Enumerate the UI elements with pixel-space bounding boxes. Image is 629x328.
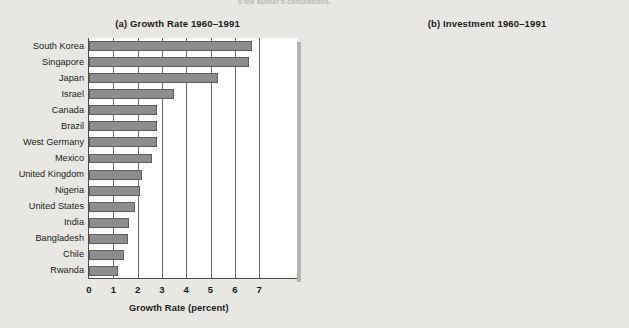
bar-growth-rate-united-kingdom (89, 170, 142, 180)
category-label-growth-rate-brazil: Brazil (61, 121, 84, 131)
category-label-growth-rate-japan: Japan (59, 73, 84, 83)
chart-panel-growth-rate: (a) Growth Rate 1960–1991 South KoreaSin… (0, 0, 315, 328)
x-tick-label-growth-rate-4: 4 (184, 284, 189, 295)
category-label-growth-rate-singapore: Singapore (42, 57, 84, 67)
category-label-growth-rate-united-states: United States (29, 201, 84, 211)
category-label-growth-rate-south-korea: South Korea (33, 41, 84, 51)
gridline-growth-rate-7 (259, 38, 260, 278)
bar-growth-rate-nigeria (89, 186, 140, 196)
x-tick-label-growth-rate-3: 3 (159, 284, 164, 295)
x-tick-label-growth-rate-2: 2 (135, 284, 140, 295)
category-label-growth-rate-israel: Israel (62, 89, 84, 99)
x-tick-label-growth-rate-1: 1 (111, 284, 116, 295)
category-label-growth-rate-united-kingdom: United Kingdom (19, 169, 84, 179)
bar-growth-rate-israel (89, 89, 174, 99)
category-label-growth-rate-mexico: Mexico (55, 153, 84, 163)
chart-title-growth-rate: (a) Growth Rate 1960–1991 (0, 18, 315, 29)
chart-title-investment: (b) Investment 1960–1991 (315, 18, 629, 29)
category-label-growth-rate-india: India (64, 217, 84, 227)
bar-growth-rate-west-germany (89, 137, 157, 147)
category-label-growth-rate-chile: Chile (63, 249, 84, 259)
x-tick-label-growth-rate-5: 5 (208, 284, 213, 295)
category-label-growth-rate-west-germany: West Germany (23, 137, 84, 147)
category-label-growth-rate-bangladesh: Bangladesh (35, 233, 84, 243)
plot-area-growth-rate: South KoreaSingaporeJapanIsraelCanadaBra… (88, 38, 297, 279)
x-axis-title-growth-rate: Growth Rate (percent) (129, 303, 229, 313)
bar-growth-rate-chile (89, 250, 124, 260)
chart-panel-investment: (b) Investment 1960–1991 South KoreaSing… (315, 0, 629, 328)
figure-page: y the author's calculations. (a) Growth … (0, 0, 629, 328)
bar-growth-rate-singapore (89, 57, 249, 67)
bar-growth-rate-mexico (89, 154, 152, 164)
gridline-growth-rate-6 (235, 38, 236, 278)
bar-growth-rate-south-korea (89, 41, 252, 51)
category-label-growth-rate-nigeria: Nigeria (55, 185, 84, 195)
category-label-growth-rate-rwanda: Rwanda (50, 265, 84, 275)
bar-growth-rate-canada (89, 105, 157, 115)
bar-growth-rate-india (89, 218, 129, 228)
bar-growth-rate-united-states (89, 202, 135, 212)
category-label-growth-rate-canada: Canada (52, 105, 84, 115)
x-tick-label-growth-rate-6: 6 (232, 284, 237, 295)
bar-growth-rate-rwanda (89, 266, 118, 276)
x-tick-label-growth-rate-7: 7 (256, 284, 261, 295)
x-tick-label-growth-rate-0: 0 (86, 284, 91, 295)
bar-growth-rate-brazil (89, 121, 157, 131)
bar-growth-rate-japan (89, 73, 218, 83)
bar-growth-rate-bangladesh (89, 234, 128, 244)
